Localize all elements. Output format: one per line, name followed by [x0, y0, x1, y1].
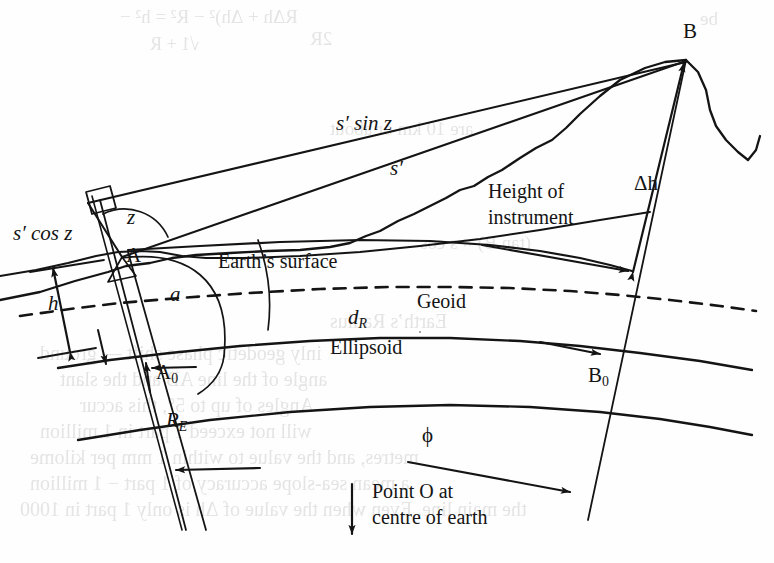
radius-line-left-inner: [128, 252, 206, 530]
label-phi: ϕ: [422, 424, 433, 448]
label-s-cos-z: s′ cos z: [13, 222, 72, 246]
label-point-o-line1: Point O at: [372, 480, 453, 502]
label-point-o-line2: centre of earth: [372, 506, 487, 528]
label-s-sin-z: s′ sin z: [336, 112, 392, 136]
label-point-a: A: [126, 244, 141, 268]
zenith-angle-arc: [103, 209, 168, 237]
label-height-of-instrument-line1: Height of: [488, 180, 564, 202]
height-of-instrument-arrow: [482, 245, 628, 271]
label-h: h: [48, 292, 59, 316]
diagram-canvas: [0, 0, 774, 563]
geoid-curve: [20, 287, 756, 316]
a0-down-arrow: [98, 330, 106, 364]
label-s-prime: s′: [390, 157, 403, 181]
label-height-of-instrument-line2: instrument: [488, 206, 574, 228]
label-point-b: B: [683, 20, 697, 44]
label-ellipsoid: Ellipsoid: [330, 336, 402, 358]
label-angle-a: a: [170, 283, 181, 307]
label-point-a0: A0: [156, 361, 178, 386]
delta-h-measure-arrow: [633, 63, 684, 272]
label-delta-h: Δh: [634, 172, 658, 196]
label-earths-surface: Earth’s surface: [218, 250, 337, 272]
label-point-b0: B0: [588, 364, 609, 389]
angle-a-arc-lower: [198, 356, 224, 394]
s-prime-ray: [122, 61, 686, 257]
label-zenith-angle-z: z: [127, 206, 135, 230]
label-r-e: RE: [166, 409, 187, 434]
radius-line-right: [588, 60, 686, 520]
mountain-far-slope: [686, 60, 760, 160]
label-d-r: dR: [348, 306, 367, 331]
h-top-tick: [30, 260, 104, 272]
figure-page: RΔh + Δh)² − R² = h² −2R√1 + Rbeare 10 k…: [0, 0, 774, 563]
label-geoid: Geoid: [417, 290, 466, 312]
h-bottom-tick: [38, 348, 96, 358]
